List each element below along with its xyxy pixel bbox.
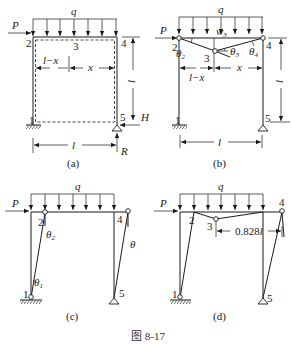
node-label-3: 3 (73, 40, 79, 52)
pin-support-icon (109, 298, 119, 304)
hinge-icon (213, 49, 218, 54)
node-label-4: 4 (121, 37, 127, 49)
panel-c: q P 2 θ2 4 θ θ1 1 5 (c) (5, 180, 136, 323)
distributed-load-a (33, 19, 117, 36)
dim-label-0828l: 0.828l (235, 225, 263, 237)
node-label-5: 5 (120, 111, 126, 123)
panel-label-b: (b) (213, 157, 226, 170)
reaction-label-h: H (140, 111, 150, 123)
theta-label: θ (130, 238, 136, 250)
force-label-p: P (11, 19, 19, 31)
theta1-label: θ1 (34, 276, 43, 290)
node-label-2: 2 (26, 37, 32, 49)
node-label-2: 2 (172, 41, 178, 53)
hinge-icon (178, 295, 183, 300)
frame-c (31, 212, 128, 298)
w3-label: w3 (216, 25, 227, 39)
load-label-q: q (71, 5, 77, 17)
fixed-support-icon (172, 125, 187, 129)
hinge-icon (29, 295, 34, 300)
load-label-q: q (218, 3, 224, 15)
theta3-label: θ3 (230, 45, 239, 59)
dim-label-span: l (218, 136, 221, 148)
node-label-4: 4 (266, 39, 272, 51)
fixed-support-icon (20, 300, 42, 304)
node-label-1: 1 (175, 114, 181, 126)
dim-label-l-minus-x: l−x (43, 54, 58, 66)
pin-support-icon (258, 125, 268, 131)
dim-label-x: x (87, 61, 93, 73)
node-label-3: 3 (207, 220, 213, 232)
node-label-4: 4 (117, 213, 123, 225)
theta4-label: θ4 (249, 45, 258, 59)
hinge-icon (214, 217, 219, 222)
figure-caption: 图 8-17 (131, 330, 165, 342)
node-label-4: 4 (279, 196, 285, 208)
node-label-1: 1 (23, 288, 29, 300)
theta2-label: θ2 (46, 228, 55, 242)
node-label-3: 3 (204, 52, 210, 64)
node-label-1: 1 (29, 114, 35, 126)
hinge-icon (43, 210, 48, 215)
panel-b: q P θ2 w3 θ3 θ4 2 3 4 1 5 (155, 3, 290, 170)
panel-d: q P 2 3 4 1 5 0.828l (154, 180, 285, 323)
hinge-icon (126, 209, 131, 214)
dim-label-l-minus-x: l−x (189, 71, 204, 83)
panel-label-a: (a) (67, 157, 80, 170)
reaction-label-r: R (120, 145, 128, 157)
distributed-load-c (31, 194, 114, 210)
distributed-load-d (180, 194, 263, 210)
force-label-p: P (11, 197, 19, 209)
load-label-q: q (75, 180, 81, 192)
dim-label-span: l (72, 139, 75, 151)
dim-label-height: l (125, 80, 137, 83)
frame-d (180, 212, 284, 298)
dim-label-height: l (273, 80, 285, 83)
node-label-5: 5 (267, 292, 273, 304)
hinge-icon (280, 209, 285, 214)
force-label-p: P (159, 24, 167, 36)
pin-support-icon (112, 125, 122, 131)
node-label-5: 5 (119, 287, 125, 299)
figure-canvas: q P 2 3 4 1 5 (0, 0, 292, 345)
node-label-2: 2 (38, 216, 44, 228)
hinge-icon (261, 36, 266, 41)
hinge-icon (177, 36, 182, 41)
node-label-1: 1 (172, 288, 178, 300)
panel-label-c: (c) (66, 310, 79, 323)
fixed-support-icon (170, 300, 191, 304)
panel-label-d: (d) (213, 310, 226, 323)
load-label-q: q (218, 180, 224, 192)
dimension-height-a (122, 37, 140, 120)
dim-label-x: x (236, 61, 242, 73)
panel-a: q P 2 3 4 1 5 (8, 5, 150, 170)
node-label-2: 2 (189, 214, 195, 226)
force-label-p: P (159, 197, 167, 209)
